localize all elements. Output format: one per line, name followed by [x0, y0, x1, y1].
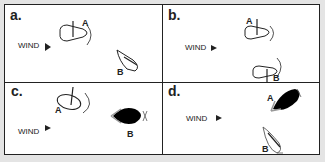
sailboats-illustration	[5, 5, 162, 82]
wind-arrow-icon	[211, 45, 217, 51]
panel-c: c. WIND A B	[5, 83, 162, 160]
boat-a-hull	[273, 89, 300, 110]
sailboats-illustration	[5, 83, 162, 156]
sailboats-illustration	[163, 83, 320, 156]
diagram-panel: a. WIND A B b. WIND A B c. WIND	[4, 4, 320, 155]
wind-arrow-icon	[45, 43, 51, 51]
boat-b-label: B	[262, 144, 269, 154]
boat-b-hull	[113, 108, 141, 124]
boat-a-label: A	[246, 16, 253, 26]
panel-d: d. WIND A B	[163, 83, 320, 160]
boat-b-label: B	[273, 73, 280, 83]
panel-a: a. WIND A B	[5, 5, 162, 82]
boat-b-label: B	[117, 67, 124, 77]
panel-b: b. WIND A B	[163, 5, 320, 82]
boat-a-label: A	[82, 18, 89, 28]
boat-b-label: B	[127, 129, 134, 139]
boat-a-label: A	[55, 105, 62, 115]
sailboats-illustration	[163, 5, 320, 82]
wind-arrow-icon	[216, 115, 222, 121]
wind-arrow-icon	[45, 125, 51, 131]
boat-a-label: A	[267, 93, 274, 103]
